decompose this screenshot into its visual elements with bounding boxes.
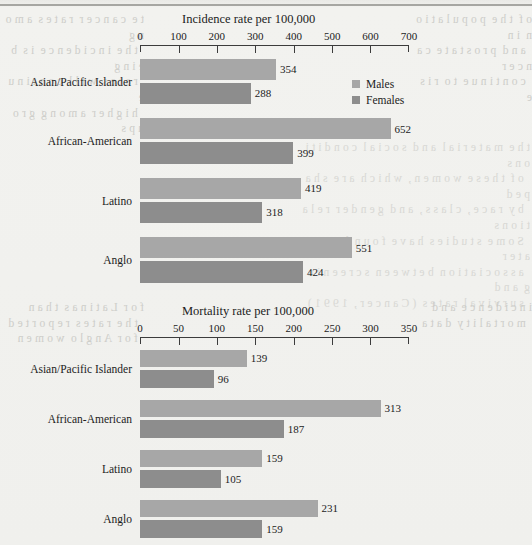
x-tick-label-700: 700 [401, 30, 418, 42]
legend-swatch-females [352, 96, 360, 104]
x-axis-tick-labels: 0100200300400500600700 [140, 30, 409, 45]
category-label: Asian/Pacific Islander [30, 76, 132, 88]
bar-row: 231 [140, 500, 409, 518]
bar-value-label: 159 [262, 523, 283, 535]
category-labels-mortality: Asian/Pacific IslanderAfrican-AmericanLa… [0, 344, 136, 544]
x-tick-label-600: 600 [362, 30, 379, 42]
bar-males [140, 500, 318, 518]
x-tick-label-400: 400 [285, 30, 302, 42]
bar-value-label: 159 [262, 452, 283, 464]
bar-value-label: 187 [284, 423, 305, 435]
bar-value-label: 139 [247, 352, 268, 364]
bar-row: 318 [140, 202, 409, 223]
bar-row: 159 [140, 520, 409, 538]
bar-value-label: 96 [214, 373, 229, 385]
bar-females [140, 520, 262, 538]
bar-value-label: 424 [303, 266, 324, 278]
bar-value-label: 313 [381, 402, 402, 414]
scanned-page: t e c a n c e r r a t e s a m o n g t h … [0, 0, 532, 545]
legend-label-males: Males [366, 78, 394, 90]
bar-row: 187 [140, 420, 409, 438]
x-tick-label-150: 150 [247, 322, 264, 334]
plot-area-mortality: 13996313187159105231159 [140, 344, 409, 544]
category-labels-incidence: Asian/Pacific IslanderAfrican-AmericanLa… [0, 52, 136, 290]
x-tick-label-300: 300 [362, 322, 379, 334]
chart-mortality: Mortality rate per 100,000 0501001502002… [0, 300, 532, 545]
x-tick-label-300: 300 [247, 30, 264, 42]
chart-incidence: Incidence rate per 100,000 0100200300400… [0, 8, 532, 296]
bar-females [140, 370, 214, 388]
category-label: African-American [48, 413, 132, 425]
x-tick-label-0: 0 [137, 30, 143, 42]
bar-row: 313 [140, 400, 409, 418]
x-axis-mortality: 050100150200250300350 [140, 322, 409, 344]
bar-males [140, 350, 247, 368]
bar-females [140, 261, 303, 282]
x-tick-label-200: 200 [285, 322, 302, 334]
bar-value-label: 652 [391, 122, 412, 134]
bar-row: 419 [140, 178, 409, 199]
bar-row: 652 [140, 118, 409, 139]
bar-females [140, 83, 251, 104]
chart-title-mortality: Mortality rate per 100,000 [182, 304, 314, 319]
page-top-rule [0, 4, 532, 6]
legend-incidence: MalesFemales [352, 78, 404, 110]
bar-females [140, 420, 284, 438]
legend-label-females: Females [366, 94, 404, 106]
category-label: Anglo [103, 513, 132, 525]
bar-row: 159 [140, 450, 409, 468]
bar-row: 96 [140, 370, 409, 388]
x-axis-line [140, 45, 409, 52]
bar-row: 105 [140, 470, 409, 488]
category-label: Latino [102, 463, 132, 475]
bar-row: 424 [140, 261, 409, 282]
x-tick-label-0: 0 [137, 322, 143, 334]
bar-row: 354 [140, 59, 409, 80]
x-tick-label-500: 500 [324, 30, 341, 42]
category-label: Latino [102, 195, 132, 207]
bar-males [140, 237, 352, 258]
category-label: Anglo [103, 254, 132, 266]
x-axis-line [140, 337, 409, 344]
x-tick-label-100: 100 [170, 30, 187, 42]
bar-males [140, 400, 381, 418]
bar-value-label: 288 [251, 87, 272, 99]
x-tick-label-350: 350 [401, 322, 418, 334]
bar-females [140, 202, 262, 223]
x-tick-label-100: 100 [209, 322, 226, 334]
x-tick-label-250: 250 [324, 322, 341, 334]
x-axis-tick-labels: 050100150200250300350 [140, 322, 409, 337]
x-tick-label-50: 50 [173, 322, 184, 334]
legend-swatch-males [352, 80, 360, 88]
bar-value-label: 399 [293, 147, 314, 159]
bar-row: 399 [140, 142, 409, 163]
category-label: African-American [48, 135, 132, 147]
bar-value-label: 105 [221, 473, 242, 485]
bar-value-label: 231 [318, 502, 339, 514]
bar-value-label: 551 [352, 241, 373, 253]
bar-females [140, 142, 293, 163]
bar-row: 139 [140, 350, 409, 368]
bar-males [140, 450, 262, 468]
bar-males [140, 118, 391, 139]
bar-value-label: 419 [301, 182, 322, 194]
legend-item-males: Males [352, 78, 404, 90]
bar-males [140, 178, 301, 199]
x-axis-incidence: 0100200300400500600700 [140, 30, 409, 52]
bar-value-label: 318 [262, 206, 283, 218]
bar-value-label: 354 [276, 63, 297, 75]
chart-title-incidence: Incidence rate per 100,000 [182, 12, 315, 27]
legend-item-females: Females [352, 94, 404, 106]
x-tick-label-200: 200 [209, 30, 226, 42]
category-label: Asian/Pacific Islander [30, 363, 132, 375]
bar-females [140, 470, 221, 488]
bar-row: 551 [140, 237, 409, 258]
bar-males [140, 59, 276, 80]
